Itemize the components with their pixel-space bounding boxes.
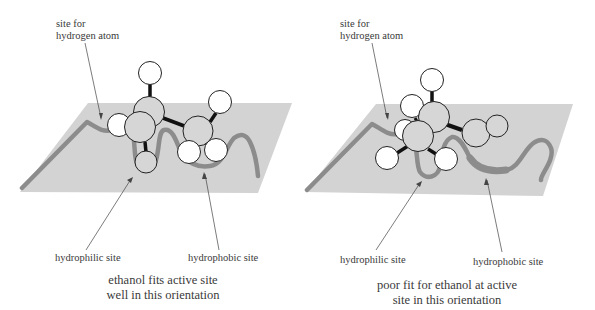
label-line: hydrogen atom (340, 30, 403, 42)
caption-line: well in this orientation (103, 288, 223, 303)
label-hydrophobic-site: hydrophobic site (188, 252, 258, 264)
label-line: site for (56, 18, 119, 30)
label-hydrogen-site: site for hydrogen atom (340, 18, 403, 42)
hydrogen-atom (421, 69, 444, 92)
label-hydrogen-site: site for hydrogen atom (56, 18, 119, 42)
caption-line: poor fit for ethanol at active (372, 278, 522, 293)
hydrogen-atom (209, 91, 232, 114)
hydrogen-atom (178, 141, 201, 164)
carbon-atom (125, 112, 156, 143)
label-hydrophobic-site: hydrophobic site (473, 256, 543, 268)
caption-line: ethanol fits active site (103, 273, 223, 288)
hydrogen-atom (435, 148, 458, 171)
carbon-atom (403, 121, 434, 152)
hydrogen-atom (139, 62, 162, 85)
oxygen-atom (135, 151, 157, 173)
oxygen-atom (486, 115, 508, 137)
label-line: site for (340, 18, 403, 30)
hydrogen-atom (205, 139, 228, 162)
label-line: hydrogen atom (56, 30, 119, 42)
label-hydrophilic-site: hydrophilic site (340, 254, 406, 266)
hydrogen-atom (376, 147, 399, 170)
label-hydrophilic-site: hydrophilic site (55, 252, 121, 264)
panel-poor-fit (305, 43, 573, 252)
panel-good-fit (20, 43, 292, 250)
caption-poor-fit: poor fit for ethanol at active site in t… (372, 278, 522, 308)
carbon-atom (462, 119, 490, 147)
caption-line: site in this orientation (372, 293, 522, 308)
caption-good-fit: ethanol fits active site well in this or… (103, 273, 223, 303)
